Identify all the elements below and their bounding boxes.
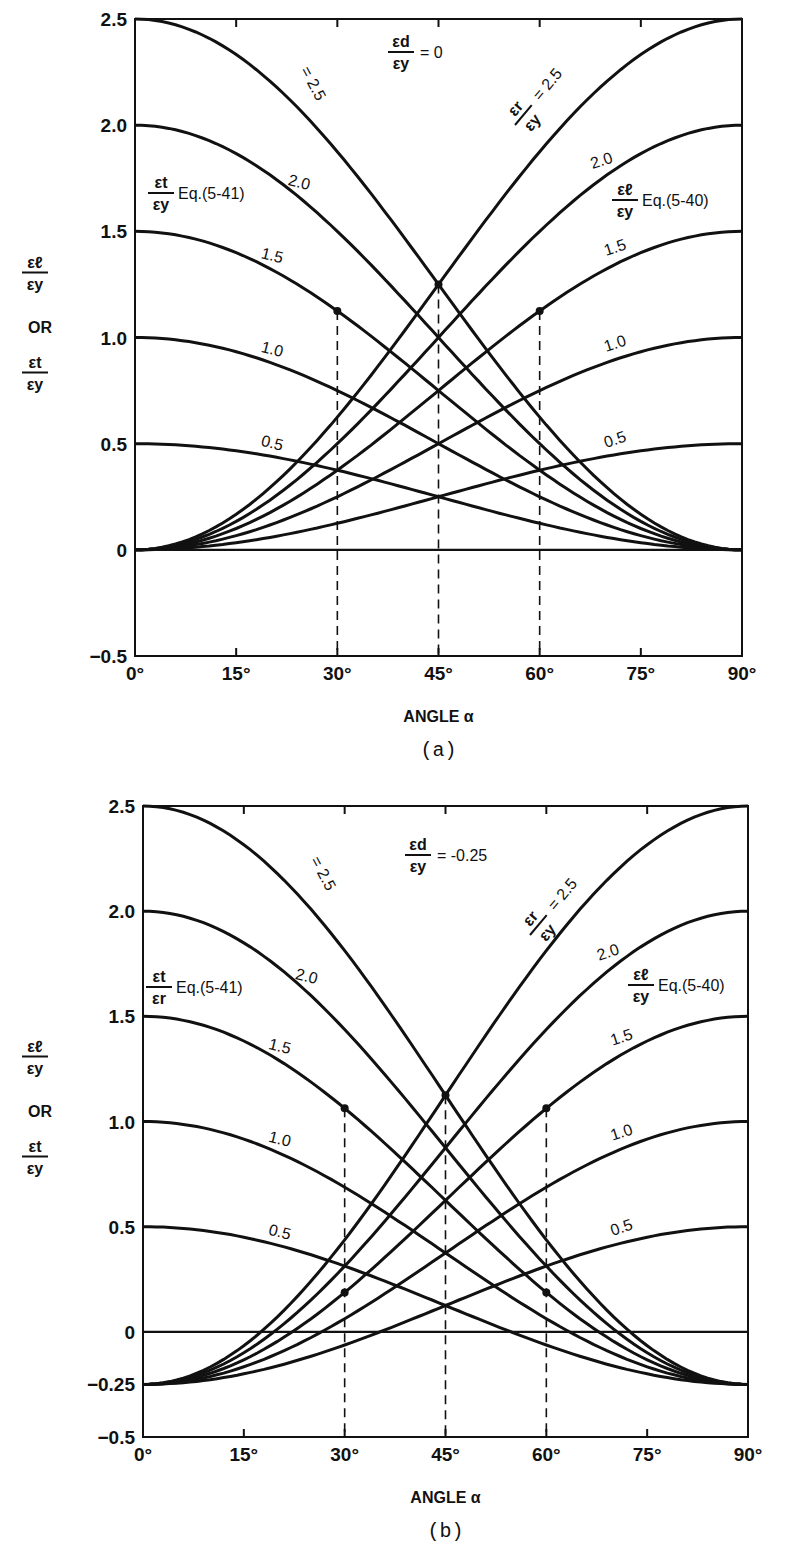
chart-panel-b: 0°15°30°45°60°75°90°2.52.01.51.00.50−0.2…	[22, 796, 762, 1543]
y-tick-label: 1.0	[101, 328, 127, 349]
svg-text:εℓ: εℓ	[617, 181, 633, 198]
y-tick-label: 2.0	[101, 115, 127, 136]
curve-labels: εdεy= -0.25= 2.5 εrεy= 2.5εtεrEq.(5-41)ε…	[146, 836, 725, 1243]
svg-text:εt: εt	[153, 968, 167, 985]
svg-text:Eq.(5-40): Eq.(5-40)	[642, 192, 709, 209]
x-tick-label: 30°	[330, 1444, 359, 1465]
y-label-el: εℓεy	[22, 1038, 48, 1077]
x-tick-label: 0°	[126, 663, 144, 684]
svg-text:= 2.5: = 2.5	[307, 853, 339, 893]
curve-label-right: 1.0	[608, 1121, 635, 1144]
x-tick-label: 30°	[323, 663, 352, 684]
svg-text:εℓ: εℓ	[633, 966, 649, 983]
panel-caption: (a)	[420, 739, 456, 762]
svg-text:εy: εy	[27, 276, 44, 293]
x-tick-label: 0°	[134, 1444, 152, 1465]
eps-d-parameter-label: εdεy= -0.25	[405, 836, 487, 875]
dashed-reference-lines	[337, 284, 539, 656]
curve-label-right: 0.5	[608, 1216, 635, 1239]
svg-text:εℓ: εℓ	[27, 1038, 43, 1055]
marked-point	[435, 280, 443, 288]
eq-5-40-label: εℓεyEq.(5-40)	[628, 966, 725, 1005]
x-tick-label: 75°	[626, 663, 655, 684]
figure: 0°15°30°45°60°75°90°2.52.01.51.00.50−0.5…	[0, 0, 785, 1558]
panel-caption: (b)	[427, 1520, 463, 1543]
y-tick-label: 2.5	[109, 796, 136, 817]
y-tick-label: 2.5	[101, 9, 128, 30]
svg-text:εy: εy	[393, 55, 410, 72]
param-fraction: εdεy	[388, 33, 414, 72]
y-tick-label: 0	[124, 1322, 135, 1343]
svg-text:εℓ: εℓ	[27, 254, 43, 271]
marked-point	[341, 1104, 349, 1112]
param-fraction: εdεy	[405, 836, 431, 875]
curve-labels: εdεy= 0= 2.5 εrεy= 2.5εtεyEq.(5-41)εℓεyE…	[148, 33, 709, 454]
curve-label-left: 0.5	[267, 1221, 293, 1243]
y-axis-label: εℓεyORεtεy	[22, 1038, 52, 1177]
curve-label-right: 1.5	[602, 236, 629, 259]
svg-text:= 2.5: = 2.5	[529, 65, 565, 104]
curve-label-left: 1.0	[267, 1128, 293, 1150]
y-tick-label: 1.5	[109, 1006, 136, 1027]
y-label-et: εtεy	[22, 1138, 48, 1177]
svg-text:εy: εy	[410, 858, 427, 875]
x-tick-label: 15°	[222, 663, 251, 684]
svg-text:Eq.(5-40): Eq.(5-40)	[658, 977, 725, 994]
x-tick-label: 45°	[431, 1444, 460, 1465]
y-axis-label: εℓεyORεtεy	[22, 254, 52, 393]
svg-text:εy: εy	[27, 1060, 44, 1077]
x-tick-label: 75°	[633, 1444, 662, 1465]
x-tick-label: 45°	[424, 663, 453, 684]
y-tick-label: 1.0	[109, 1112, 135, 1133]
eq-5-41-label: εtεrEq.(5-41)	[146, 968, 243, 1007]
y-tick-label: 0.5	[109, 1217, 136, 1238]
marked-points	[333, 280, 543, 315]
svg-text:OR: OR	[28, 319, 52, 336]
y-tick-label: −0.5	[89, 646, 127, 667]
svg-text:εy: εy	[633, 988, 650, 1005]
curve-label-left: 1.5	[259, 244, 285, 266]
marked-point	[536, 307, 544, 315]
svg-text:= 0: = 0	[420, 44, 443, 61]
y-tick-label: −0.25	[87, 1374, 136, 1395]
svg-text:= 2.5: = 2.5	[297, 63, 329, 103]
family-label-ascending: εrεy= 2.5	[500, 59, 575, 138]
svg-text:εt: εt	[29, 354, 43, 371]
svg-text:εd: εd	[392, 33, 409, 50]
curve-label-left: 1.0	[259, 338, 285, 360]
x-tick-label: 60°	[525, 663, 554, 684]
marked-point	[341, 1288, 349, 1296]
curve-label-right: 0.5	[602, 428, 629, 451]
family-label-descending: = 2.5	[307, 853, 339, 893]
svg-text:= -0.25: = -0.25	[437, 847, 487, 864]
y-label-et: εtεy	[22, 354, 48, 393]
y-label-el: εℓεy	[22, 254, 48, 293]
y-tick-label: −0.5	[97, 1427, 135, 1448]
svg-text:OR: OR	[28, 1103, 52, 1120]
svg-text:εr: εr	[152, 990, 166, 1007]
x-tick-label: 60°	[532, 1444, 561, 1465]
el-fraction: εℓεy	[628, 966, 654, 1005]
svg-text:εy: εy	[27, 376, 44, 393]
marked-point	[542, 1104, 550, 1112]
svg-text:εt: εt	[155, 174, 169, 191]
eps-d-parameter-label: εdεy= 0	[388, 33, 443, 72]
curve-label-right: 1.0	[602, 332, 629, 355]
svg-text:εt: εt	[29, 1138, 43, 1155]
marked-point	[333, 307, 341, 315]
eq-5-40-label: εℓεyEq.(5-40)	[612, 181, 709, 220]
curve-label-right: 1.5	[608, 1025, 635, 1048]
chart-panel-a: 0°15°30°45°60°75°90°2.52.01.51.00.50−0.5…	[22, 9, 756, 762]
svg-text:εy: εy	[153, 196, 170, 213]
y-tick-label: 0.5	[101, 434, 128, 455]
svg-text:= 2.5: = 2.5	[544, 875, 580, 914]
y-tick-label: 0	[116, 540, 127, 561]
tick-labels: 0°15°30°45°60°75°90°2.52.01.51.00.50−0.2…	[22, 796, 762, 1543]
svg-text:εy: εy	[27, 1160, 44, 1177]
curve-label-right: 2.0	[595, 941, 622, 964]
x-tick-label: 15°	[229, 1444, 258, 1465]
y-tick-label: 2.0	[109, 901, 135, 922]
svg-text:εy: εy	[617, 203, 634, 220]
tick-labels: 0°15°30°45°60°75°90°2.52.01.51.00.50−0.5…	[22, 9, 756, 762]
x-tick-label: 90°	[728, 663, 757, 684]
